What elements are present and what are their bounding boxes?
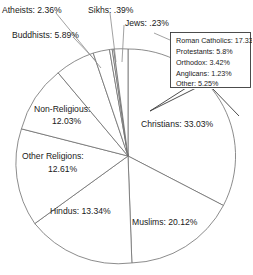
label-non-religious-line2: 12.03% xyxy=(52,116,82,126)
label-atheists: Atheists: 2.36% xyxy=(2,5,62,15)
label-buddhists: Buddhists: 5.89% xyxy=(12,30,79,40)
pie-chart-figure: Roman Catholics: 17.33% Protestants: 5.8… xyxy=(0,0,252,275)
label-non-religious-line1: Non-Religious: xyxy=(34,104,90,114)
callout-leader-left xyxy=(154,33,170,40)
callout-box[interactable]: Roman Catholics: 17.33% Protestants: 5.8… xyxy=(171,33,253,89)
callout-line-anglicans: Anglicans: 1.23% xyxy=(176,69,232,78)
label-hindus: Hindus: 13.34% xyxy=(50,206,111,216)
label-muslims: Muslims: 20.12% xyxy=(132,217,198,227)
callout-line-orthodox: Orthodox: 3.42% xyxy=(176,58,231,67)
label-other-religions-line2: 12.61% xyxy=(48,164,78,174)
callout-line-roman-catholics: Roman Catholics: 17.33% xyxy=(176,36,252,45)
callout-line-protestants: Protestants: 5.8% xyxy=(176,47,233,56)
callout-line-other: Other: 5.25% xyxy=(176,79,219,88)
label-other-religions-line1: Other Religions: xyxy=(22,151,84,161)
label-jews: Jews: .23% xyxy=(125,18,169,28)
label-sikhs: Sikhs: .39% xyxy=(88,5,134,15)
label-christians: Christians: 33.03% xyxy=(141,119,213,129)
